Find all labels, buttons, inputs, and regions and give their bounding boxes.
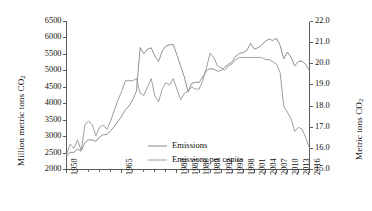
y-axis-right-title-text: Metric tons CO — [354, 102, 364, 160]
y-axis-left-tick-4000: 4000 — [45, 98, 62, 107]
x-axis-tick-2007: 2007 — [280, 158, 289, 175]
y-axis-left-tick-6000: 6000 — [45, 32, 62, 41]
y-axis-right-tick-22.0: 22.0 — [315, 16, 330, 25]
y-axis-right-tick-16.0: 16.0 — [315, 143, 330, 152]
axis-ticks — [63, 22, 312, 173]
y-axis-left-title-subscript: 2 — [19, 75, 26, 78]
y-axis-left-tick-3500: 3500 — [45, 115, 62, 124]
y-axis-left-tick-2500: 2500 — [45, 148, 62, 157]
y-axis-right-title-subscript: 2 — [357, 99, 364, 102]
y-axis-left-tick-2000: 2000 — [45, 164, 62, 173]
y-axis-right-title: Metric tons CO2 — [354, 99, 364, 160]
x-axis-tick-1950: 1950 — [70, 158, 79, 175]
x-axis-tick-2004: 2004 — [269, 158, 278, 175]
y-axis-left-tick-5000: 5000 — [45, 65, 62, 74]
y-axis-left-tick-4500: 4500 — [45, 82, 62, 91]
y-axis-left-title-text: Million metric tons CO — [16, 79, 26, 166]
x-axis-tick-2016: 2016 — [313, 158, 322, 175]
y-axis-left-title: Million metric tons CO2 — [16, 75, 26, 166]
y-axis-left-tick-3000: 3000 — [45, 131, 62, 140]
y-axis-right-tick-21.0: 21.0 — [315, 37, 330, 46]
x-axis-tick-2001: 2001 — [258, 158, 267, 175]
x-axis-tick-2010: 2010 — [291, 158, 300, 175]
x-axis-tick-2013: 2013 — [302, 158, 311, 175]
chart-figure: Million metric tons CO2 Metric tons CO2 … — [0, 0, 372, 211]
legend-label-2: Emissions per capita — [172, 154, 243, 164]
x-axis-tick-1998: 1998 — [247, 158, 256, 175]
x-axis-tick-1965: 1965 — [125, 158, 134, 175]
y-axis-right-tick-18.0: 18.0 — [315, 101, 330, 110]
y-axis-right-tick-19.0: 19.0 — [315, 79, 330, 88]
data-lines — [67, 38, 310, 156]
y-axis-left-tick-5500: 5500 — [45, 49, 62, 58]
y-axis-right-tick-20.0: 20.0 — [315, 58, 330, 67]
legend-swatches — [148, 146, 167, 160]
legend-label-1: Emissions — [172, 140, 207, 150]
y-axis-left-tick-6500: 6500 — [45, 16, 62, 25]
y-axis-right-tick-17.0: 17.0 — [315, 122, 330, 131]
